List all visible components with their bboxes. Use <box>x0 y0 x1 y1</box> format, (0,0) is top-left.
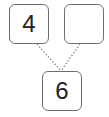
whole-box: 6 <box>42 71 82 111</box>
connector-left <box>37 44 61 71</box>
whole-value: 6 <box>55 77 68 105</box>
part-left-value: 4 <box>22 10 35 38</box>
connector-right <box>61 44 80 71</box>
part-box-left: 4 <box>9 4 49 44</box>
part-box-right[interactable] <box>64 4 104 44</box>
